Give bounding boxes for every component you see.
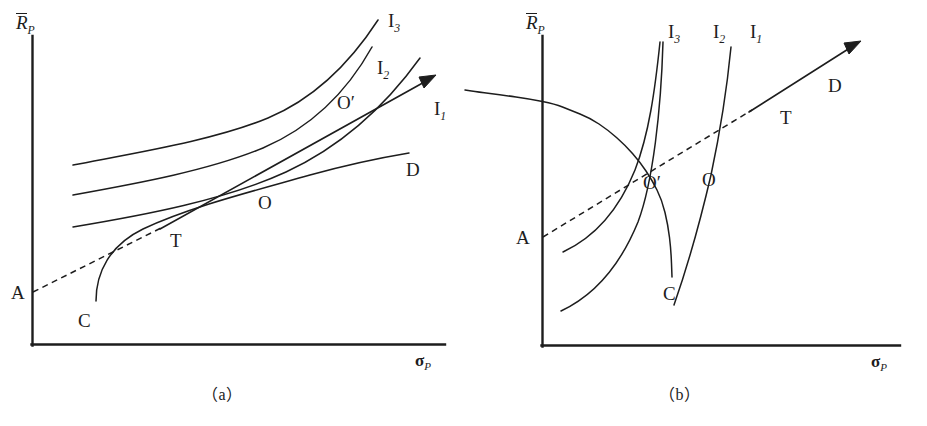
panel-b-label-o-prime: O′ (643, 173, 661, 192)
panel-b-label-c: C (663, 284, 676, 303)
panel-a-curve-i2 (73, 47, 372, 195)
panel-b: RP σP I3 I2 I1 A C O′ O T D （b） (463, 0, 927, 426)
panel-a-label-o: O (258, 193, 272, 212)
panel-a-x-axis-label: σP (415, 352, 431, 372)
panel-a-cal-solid (160, 80, 428, 229)
panel-a-canvas (0, 0, 463, 426)
panel-b-label-a: A (516, 228, 530, 247)
panel-a-label-a: A (11, 283, 25, 302)
panel-b-label-t: T (780, 108, 792, 127)
panel-a-label-i1: I1 (434, 99, 446, 123)
panel-b-y-axis-label: RP (526, 12, 545, 37)
panel-b-label-i2: I2 (713, 22, 725, 46)
panel-a-label-o-prime: O′ (337, 93, 355, 112)
panel-b-axes (542, 36, 901, 347)
panel-b-label-i3: I3 (668, 22, 680, 46)
panel-a-label-c: C (78, 311, 91, 330)
panel-b-label-i1: I1 (750, 22, 762, 46)
panel-a-curve-i3 (73, 20, 378, 165)
panel-b-cal-arrowhead (844, 41, 861, 54)
panel-b-canvas (463, 0, 927, 426)
panel-b-label-d: D (828, 76, 842, 95)
panel-a-cal-arrowhead (419, 75, 436, 88)
panel-a-curve-i1 (73, 58, 420, 227)
panel-b-label-o: O (702, 170, 716, 189)
panel-b-x-axis-label: σP (871, 353, 887, 373)
panel-a-caption: （a） (202, 381, 243, 405)
panel-a-label-d: D (406, 160, 420, 179)
panel-b-caption: （b） (659, 381, 701, 405)
panel-a-y-axis-label: RP (16, 12, 35, 37)
panel-a-efficient-frontier-cd (96, 153, 409, 301)
panel-a: RP σP I3 I2 I1 A C T O O′ D （a） (0, 0, 463, 426)
panel-a-label-i3: I3 (388, 11, 400, 35)
panel-b-curve-i3 (563, 42, 660, 252)
panel-a-label-t: T (170, 231, 182, 250)
panel-a-label-i2: I2 (377, 58, 389, 82)
figure-root: RP σP I3 I2 I1 A C T O O′ D （a） (0, 0, 927, 426)
